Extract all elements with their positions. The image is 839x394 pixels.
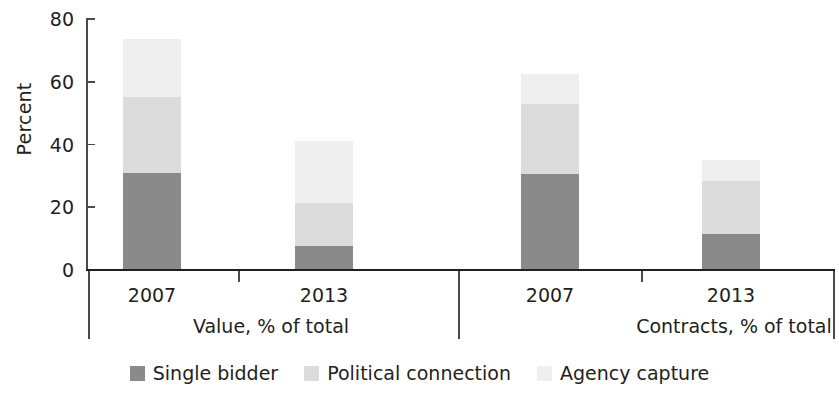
bar-contracts-2007 bbox=[521, 74, 579, 270]
bar-segment-single-bidder bbox=[702, 234, 760, 270]
bar-value-2013 bbox=[295, 141, 353, 270]
category-minor-tick bbox=[641, 271, 643, 282]
y-axis-tick-label: 20 bbox=[30, 196, 74, 218]
bar-segment-agency-capture bbox=[702, 160, 760, 180]
bar-contracts-2013 bbox=[702, 160, 760, 270]
bar-segment-agency-capture bbox=[295, 141, 353, 202]
bar-segment-political-connection bbox=[123, 97, 181, 172]
y-axis-tick-label: 40 bbox=[30, 134, 74, 156]
category-label: 2007 bbox=[92, 284, 212, 306]
group-label: Value, % of total bbox=[106, 315, 436, 337]
y-axis-tick-label: 80 bbox=[30, 8, 74, 30]
y-axis-tick-label: 60 bbox=[30, 71, 74, 93]
category-axis-band: 2007201320072013Value, % of totalContrac… bbox=[86, 271, 835, 341]
stacked-bar-chart: Percent 806040200 2007201320072013Value,… bbox=[0, 0, 839, 394]
legend-item-agency-capture: Agency capture bbox=[537, 362, 709, 384]
legend-swatch-icon bbox=[304, 366, 319, 381]
bar-segment-single-bidder bbox=[123, 173, 181, 270]
category-minor-tick bbox=[238, 271, 240, 282]
legend-item-political-connection: Political connection bbox=[304, 362, 511, 384]
legend-label: Agency capture bbox=[560, 362, 709, 384]
legend-swatch-icon bbox=[537, 366, 552, 381]
category-label: 2013 bbox=[671, 284, 791, 306]
group-label: Contracts, % of total bbox=[569, 315, 839, 337]
category-label: 2007 bbox=[490, 284, 610, 306]
bar-segment-agency-capture bbox=[521, 74, 579, 104]
legend-item-single-bidder: Single bidder bbox=[130, 362, 278, 384]
bar-segment-political-connection bbox=[295, 203, 353, 247]
bar-segment-political-connection bbox=[521, 104, 579, 175]
legend-label: Political connection bbox=[327, 362, 511, 384]
y-axis-tick-label: 0 bbox=[30, 259, 74, 281]
bar-segment-political-connection bbox=[702, 181, 760, 234]
category-label: 2013 bbox=[264, 284, 384, 306]
legend-swatch-icon bbox=[130, 366, 145, 381]
bar-segment-agency-capture bbox=[123, 39, 181, 97]
bar-value-2007 bbox=[123, 39, 181, 270]
group-separator bbox=[88, 271, 90, 339]
legend-label: Single bidder bbox=[153, 362, 278, 384]
chart-legend: Single bidderPolitical connectionAgency … bbox=[0, 362, 839, 384]
bar-segment-single-bidder bbox=[521, 174, 579, 270]
plot-area bbox=[86, 19, 835, 270]
group-separator bbox=[458, 271, 460, 339]
bar-segment-single-bidder bbox=[295, 246, 353, 270]
